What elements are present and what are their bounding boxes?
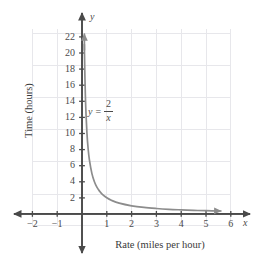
y-tick-label: 8 [57,144,75,154]
y-tick-label: 6 [57,160,75,170]
y-tick-label: 22 [57,32,75,42]
equation-annotation: y = 2 x [88,99,113,123]
y-tick-label: 18 [57,64,75,74]
x-tick-label: 5 [198,219,214,229]
x-axis-title: Rate (miles per hour) [80,239,240,250]
equation-fraction: 2 x [104,99,113,123]
y-axis-variable-label: y [90,11,94,22]
x-axis-variable-label: x [243,217,247,228]
y-tick-label: 16 [57,80,75,90]
y-tick-label: 10 [57,128,75,138]
x-tick-label: 1 [99,219,115,229]
equation-lhs: y [88,106,92,117]
hyperbola-curve [84,44,221,211]
x-tick-label: 4 [173,219,189,229]
equation-denominator: x [104,113,112,124]
equation-numerator: 2 [104,99,113,110]
graph-figure: 22 20 18 16 14 12 10 8 6 4 2 −2 −1 1 2 3… [0,0,261,265]
x-tick-label: 6 [223,219,239,229]
y-tick-label: 4 [57,176,75,186]
y-tick-label: 14 [57,96,75,106]
equation-equals: = [95,106,101,117]
y-axis-title: Time (hours) [23,61,34,161]
x-tick-label: −2 [24,219,40,229]
y-tick-label: 20 [57,48,75,58]
x-tick-label: −1 [49,219,65,229]
x-tick-label: 3 [148,219,164,229]
y-tick-label: 12 [57,112,75,122]
y-tick-label: 2 [57,193,75,203]
x-tick-label: 2 [124,219,140,229]
